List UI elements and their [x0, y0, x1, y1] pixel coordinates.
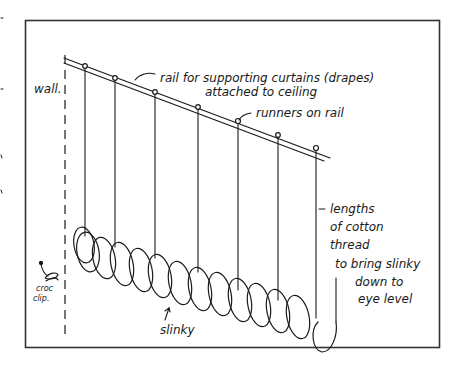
runners-label: runners on rail — [256, 106, 345, 120]
thread-label-line2: of cotton — [330, 220, 384, 234]
croc-clip-icon — [39, 261, 58, 281]
thread-label-line3: thread — [330, 238, 370, 252]
runner — [83, 64, 88, 69]
thread-label-line6: eye level — [358, 292, 413, 306]
runner — [196, 105, 201, 110]
slinky-label: slinky — [160, 323, 195, 337]
croc-clip-label-line2: clip. — [33, 294, 49, 303]
rail-label-line1: rail for supporting curtains (drapes) — [160, 71, 374, 85]
runner — [276, 133, 281, 138]
thread-label-line5: down to — [355, 275, 403, 289]
runner — [153, 90, 158, 95]
rail-label-line2: attached to ceiling — [205, 85, 318, 99]
thread-label-line1: lengths — [330, 202, 375, 216]
slinky-setup-diagram: wall. rail for supporting curtains (drap… — [0, 0, 467, 386]
slinky-coils — [71, 226, 336, 352]
edge-marks — [1, 18, 3, 193]
thread-label-line4: to bring slinky — [335, 257, 421, 271]
runner — [314, 146, 319, 151]
croc-clip-label-line1: croc — [36, 284, 54, 293]
wall-label: wall. — [34, 82, 62, 96]
runner — [113, 76, 118, 81]
